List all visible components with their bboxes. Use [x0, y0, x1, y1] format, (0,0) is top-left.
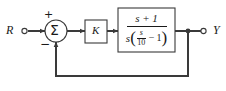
- inner-fraction-denominator: 10: [137, 39, 145, 47]
- plant-transfer-function: s + 1 s ( s 10 − 1 ): [119, 9, 174, 51]
- gain-block-label: K: [92, 25, 99, 36]
- summing-junction-minus-sign: −: [40, 38, 50, 50]
- input-signal-label: R: [6, 24, 13, 36]
- denominator-open-paren: (: [130, 31, 136, 45]
- denominator-minus-operator: −: [149, 33, 155, 43]
- summing-junction-plus-sign: +: [44, 9, 53, 20]
- inner-fraction-numerator: s: [140, 29, 143, 37]
- output-terminal-circle: [201, 28, 206, 33]
- denominator-close-paren: ): [161, 31, 167, 45]
- input-terminal-circle: [22, 28, 27, 33]
- output-signal-label: Y: [213, 24, 220, 36]
- denominator-inner-fraction: s 10: [137, 29, 146, 47]
- block-diagram-figure: R Y Σ + − K s + 1 s ( s 10 − 1 ): [0, 0, 226, 91]
- transfer-function-denominator: s ( s 10 − 1 ): [126, 28, 167, 47]
- transfer-function-numerator: s + 1: [133, 13, 160, 25]
- output-junction-dot: [186, 29, 191, 34]
- transfer-function-fraction-bar: [127, 26, 167, 27]
- diagram-canvas: [0, 0, 226, 91]
- summing-junction-sigma-label: Σ: [50, 23, 59, 37]
